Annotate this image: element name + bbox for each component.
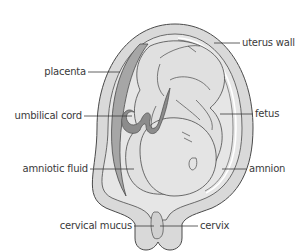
label-uterus-wall: uterus wall: [242, 37, 295, 49]
label-amniotic-fluid: amniotic fluid: [23, 163, 88, 175]
label-umbilical-cord: umbilical cord: [15, 110, 82, 122]
cervical-mucus-shape: [151, 212, 163, 239]
label-cervical-mucus: cervical mucus: [60, 220, 132, 232]
label-fetus: fetus: [255, 108, 279, 120]
label-amnion: amnion: [249, 163, 285, 175]
label-placenta: placenta: [44, 66, 86, 78]
fetus-uterus-diagram: placenta umbilical cord amniotic fluid c…: [0, 0, 306, 252]
label-cervix: cervix: [200, 220, 229, 232]
